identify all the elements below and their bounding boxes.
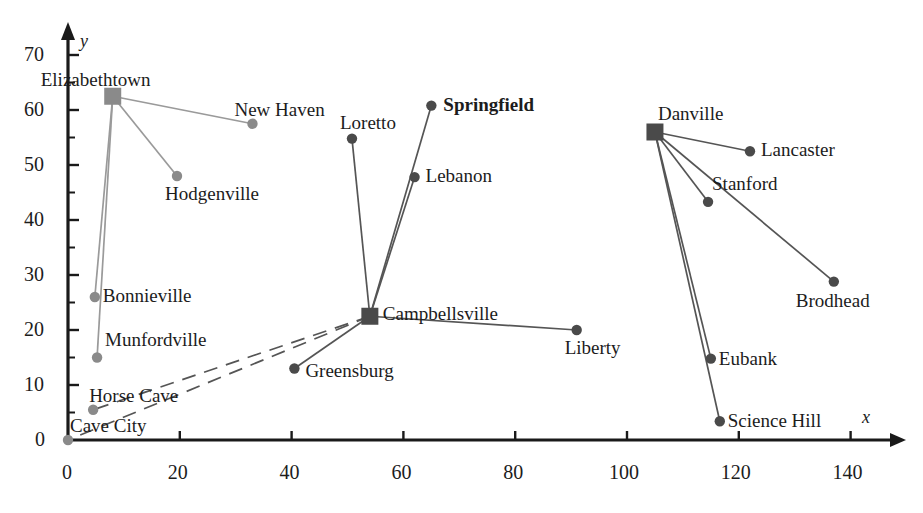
y-tick-label-30: 30 <box>24 264 44 284</box>
x-tick-label-100: 100 <box>609 462 639 482</box>
x-axis-label: x <box>862 408 870 426</box>
edge-campbellsville-to-lebanon <box>370 177 415 316</box>
city-label-campbellsville: Campbellsville <box>383 304 498 323</box>
x-tick-label-0: 0 <box>62 462 72 482</box>
node-marker-science-hill[interactable] <box>715 416 725 426</box>
y-tick-label-0: 0 <box>35 429 45 449</box>
node-marker-lancaster[interactable] <box>745 146 755 156</box>
y-tick-label-40: 40 <box>24 209 44 229</box>
node-marker-hodgenville[interactable] <box>172 171 182 181</box>
city-label-lebanon: Lebanon <box>426 166 492 185</box>
city-label-liberty: Liberty <box>565 338 621 357</box>
y-tick-label-60: 60 <box>24 99 44 119</box>
edge-elizabethtown-to-new-haven <box>113 96 253 124</box>
city-label-cave-city: Cave City <box>70 416 147 435</box>
node-marker-springfield[interactable] <box>426 100 436 110</box>
node-marker-bonnieville[interactable] <box>90 292 100 302</box>
node-marker-munfordville[interactable] <box>92 352 102 362</box>
edge-campbellsville-to-loretto <box>352 139 370 317</box>
city-label-horse-cave: Horse Cave <box>89 386 178 405</box>
city-label-danville: Danville <box>658 104 723 123</box>
x-tick-label-140: 140 <box>833 462 863 482</box>
node-marker-cave-city[interactable] <box>63 435 73 445</box>
city-label-lancaster: Lancaster <box>761 140 835 159</box>
y-tick-label-20: 20 <box>24 319 44 339</box>
city-label-munfordville: Munfordville <box>105 330 206 349</box>
node-marker-lebanon[interactable] <box>409 172 419 182</box>
y-tick-label-70: 70 <box>24 44 44 64</box>
city-label-elizabethtown: Elizabethtown <box>41 70 151 89</box>
city-label-bonnieville: Bonnieville <box>103 286 192 305</box>
node-marker-stanford[interactable] <box>703 197 713 207</box>
x-tick-label-120: 120 <box>721 462 751 482</box>
y-tick-label-50: 50 <box>24 154 44 174</box>
node-marker-danville[interactable] <box>646 124 663 141</box>
edge-elizabethtown-to-munfordville <box>97 96 113 357</box>
city-label-hodgenville: Hodgenville <box>165 184 259 203</box>
edge-campbellsville-to-springfield <box>370 106 431 317</box>
chart-canvas: ElizabethtownNew HavenHodgenvilleBonniev… <box>0 0 923 513</box>
x-axis-arrowhead <box>890 433 906 447</box>
x-tick-label-20: 20 <box>168 462 188 482</box>
y-tick-label-10: 10 <box>24 374 44 394</box>
x-tick-label-80: 80 <box>503 462 523 482</box>
city-label-eubank: Eubank <box>719 349 777 368</box>
city-label-new-haven: New Haven <box>234 100 324 119</box>
city-label-greensburg: Greensburg <box>305 361 393 380</box>
node-marker-brodhead[interactable] <box>829 276 839 286</box>
node-marker-horse-cave[interactable] <box>88 405 98 415</box>
city-label-stanford: Stanford <box>712 174 777 193</box>
x-tick-label-60: 60 <box>391 462 411 482</box>
node-marker-elizabethtown[interactable] <box>104 88 121 105</box>
city-label-springfield: Springfield <box>443 95 534 114</box>
edge-danville-to-lancaster <box>655 132 750 151</box>
node-marker-greensburg[interactable] <box>289 363 299 373</box>
node-marker-loretto[interactable] <box>347 133 357 143</box>
node-marker-eubank[interactable] <box>706 353 716 363</box>
city-label-science-hill: Science Hill <box>728 411 821 430</box>
edge-elizabethtown-to-bonnieville <box>95 96 113 297</box>
x-tick-label-40: 40 <box>280 462 300 482</box>
y-axis-arrowhead <box>61 22 75 40</box>
node-marker-campbellsville[interactable] <box>361 308 378 325</box>
node-marker-new-haven[interactable] <box>247 119 257 129</box>
edge-elizabethtown-to-hodgenville <box>113 96 177 176</box>
y-axis-label: y <box>80 32 88 50</box>
city-label-loretto: Loretto <box>340 113 396 132</box>
city-label-brodhead: Brodhead <box>796 291 870 310</box>
node-marker-liberty[interactable] <box>571 325 581 335</box>
